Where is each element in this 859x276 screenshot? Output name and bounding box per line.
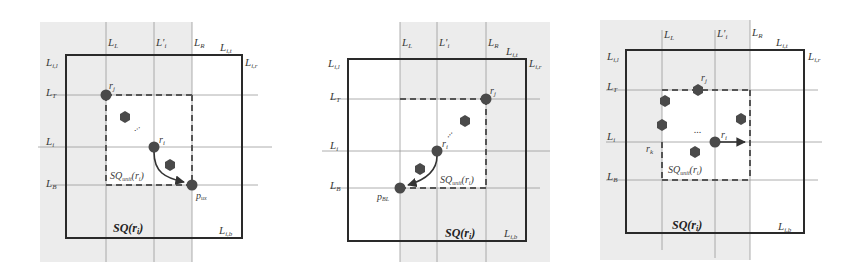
target-point — [395, 183, 406, 194]
label-sq: SQ(ri) — [113, 221, 143, 236]
ellipsis-dots: ... — [694, 124, 702, 135]
label-target: pBL — [376, 191, 390, 202]
label-L-i-b: Li,b — [218, 224, 233, 238]
panel-3: ... LL L'i LR Li,t Li,l Li,r LT Li LB Li… — [600, 20, 822, 260]
label-L-i-b: Li,b — [777, 220, 792, 234]
label-L-T: LT — [329, 90, 341, 104]
robot-r-j — [101, 90, 112, 101]
label-L-R: LR — [751, 26, 763, 40]
target-point — [187, 180, 198, 191]
label-sq: SQ(ri) — [445, 226, 475, 241]
robot-r-i — [149, 142, 160, 153]
label-L-B: LB — [329, 179, 341, 193]
figure-canvas: ··· LL L'i LR Li,t Li,l Li,r LT Li LB Li… — [0, 0, 859, 276]
robot-r-i — [432, 146, 443, 157]
label-sq: SQ(ri) — [672, 218, 702, 233]
panel-1: ··· LL L'i LR Li,t Li,l Li,r LT Li LB Li… — [38, 22, 272, 262]
label-L-i-l: Li,l — [327, 57, 340, 71]
label-L-i-t: Li,t — [219, 41, 233, 55]
label-L-R: LR — [193, 36, 205, 50]
label-L-i-r: Li,r — [244, 56, 258, 70]
robot-r-i — [710, 137, 721, 148]
panel-2: ··· LL L'i LR Li,t Li,l Li,r LT Li LB Li… — [322, 22, 550, 262]
label-L-i-t: Li,t — [775, 36, 789, 50]
label-L-i: Li — [329, 139, 338, 153]
label-L-i-r: Li,r — [807, 50, 821, 64]
label-target: pux — [195, 190, 207, 201]
